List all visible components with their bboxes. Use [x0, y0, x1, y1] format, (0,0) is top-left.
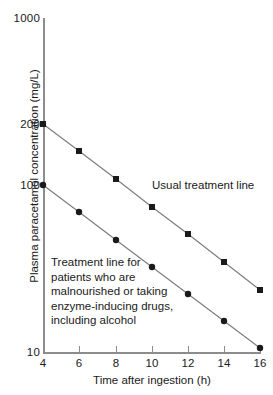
data-point-circle — [40, 182, 46, 188]
data-point-square — [185, 231, 191, 237]
data-point-circle — [185, 291, 191, 297]
data-point-circle — [76, 209, 82, 215]
annotation-risk-line-2: patients who are — [51, 270, 176, 285]
annotation-usual-treatment-line: Usual treatment line — [152, 178, 254, 193]
plot-area — [0, 0, 273, 395]
annotation-risk-line-4: enzyme-inducing drugs, — [51, 299, 176, 314]
annotation-risk-line-3: malnourished or taking — [51, 284, 176, 299]
data-point-circle — [221, 318, 227, 324]
data-point-square — [149, 204, 155, 210]
data-point-circle — [257, 345, 263, 351]
data-point-square — [221, 259, 227, 265]
data-point-square — [76, 148, 82, 154]
annotation-risk-line-5: including alcohol — [51, 313, 176, 328]
data-point-square — [257, 287, 263, 293]
paracetamol-treatment-nomogram: 1000 200 100 10 4 6 8 10 12 14 16 Time a… — [0, 0, 273, 395]
data-point-circle — [113, 237, 119, 243]
data-point-square — [40, 121, 46, 127]
annotation-high-risk-treatment-line: Treatment line for patients who are maln… — [51, 255, 176, 328]
data-point-square — [113, 176, 119, 182]
annotation-risk-line-1: Treatment line for — [51, 255, 176, 270]
